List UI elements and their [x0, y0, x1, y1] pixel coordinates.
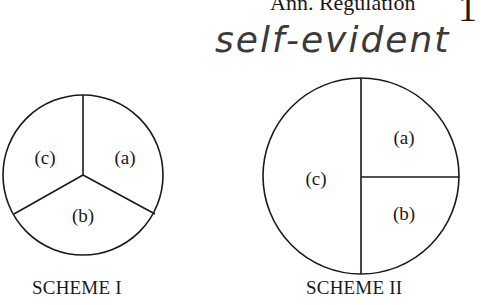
scheme-1-label-a: (a) — [114, 147, 135, 169]
scheme-2-label-c: (c) — [305, 168, 326, 190]
scheme-1-caption: SCHEME I — [32, 277, 122, 299]
scheme-1-label-c: (c) — [34, 147, 55, 169]
scheme-2-label-a: (a) — [393, 127, 414, 149]
schemes-diagram: (a) (b) (c) (a) (b) (c) — [0, 0, 485, 305]
scheme-2-caption: SCHEME II — [306, 277, 402, 299]
scheme-1-pie — [3, 95, 163, 255]
scheme-1-label-b: (b) — [72, 205, 94, 227]
scheme-2-label-b: (b) — [393, 203, 415, 225]
scheme-2-pie — [263, 78, 459, 274]
